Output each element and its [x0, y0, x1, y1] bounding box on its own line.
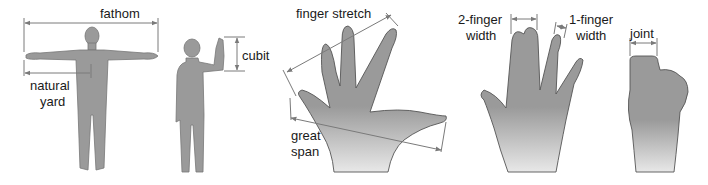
spread-hand — [298, 26, 446, 172]
fathom-label: fathom — [100, 6, 140, 21]
two-finger-width-label-line1: 2-finger — [458, 12, 502, 27]
natural-yard-label-line2: yard — [40, 94, 65, 109]
finger-width-hand — [481, 28, 583, 172]
two-finger-width-label-line2: width — [466, 28, 496, 43]
cubit-label: cubit — [242, 48, 269, 63]
one-finger-width-label-line2: width — [576, 28, 606, 43]
natural-yard-label-line1: natural — [30, 78, 70, 93]
great-span-label-line1: great — [291, 128, 321, 143]
finger-stretch-label: finger stretch — [296, 6, 371, 21]
joint-label: joint — [630, 26, 654, 41]
woman-figure — [176, 38, 224, 172]
one-finger-width-label-line1: 1-finger — [569, 12, 613, 27]
fist — [628, 56, 688, 172]
great-span-label-line2: span — [291, 144, 319, 159]
